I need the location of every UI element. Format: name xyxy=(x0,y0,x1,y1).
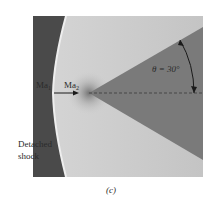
shock-label-line2: shock xyxy=(18,151,39,161)
cone-angle-label: θ = 30° xyxy=(152,64,180,74)
figure-caption: (c) xyxy=(106,185,116,195)
shock-label-line1: Detached xyxy=(18,139,52,149)
detached-shock-diagram: Ma1 Ma2 θ = 30° Detached shock (c) xyxy=(0,0,214,206)
